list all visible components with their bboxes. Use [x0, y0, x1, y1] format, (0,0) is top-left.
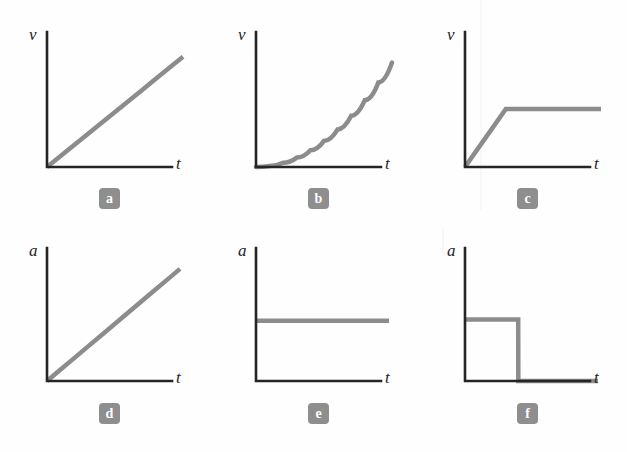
panel-badge-e: e	[308, 403, 329, 424]
y-axis-label: a	[447, 242, 456, 259]
curve-a	[47, 57, 183, 167]
axes-e	[256, 248, 381, 381]
y-axis-label: v	[238, 26, 246, 43]
panel-c: v t c	[418, 0, 627, 226]
y-axis-label: v	[29, 26, 37, 43]
x-axis-label: t	[385, 369, 390, 386]
panel-badge-d: d	[99, 403, 120, 424]
x-axis-label: t	[594, 155, 599, 172]
x-axis-label: t	[176, 155, 181, 172]
axes-a	[47, 32, 172, 167]
panel-badge-b: b	[308, 188, 329, 209]
panel-badge-a: a	[99, 188, 120, 209]
panel-a: v t a	[0, 0, 209, 226]
panel-e: a t e	[209, 226, 418, 452]
panel-f: a t f	[418, 226, 627, 452]
y-axis-label: v	[447, 26, 455, 43]
curve-d	[47, 269, 180, 381]
x-axis-label: t	[176, 369, 181, 386]
figure-root: v t a v t b v t c a t d	[0, 0, 627, 452]
curve-b	[256, 63, 392, 167]
panel-d: a t d	[0, 226, 209, 452]
curve-c	[465, 109, 601, 167]
x-axis-label: t	[594, 369, 599, 386]
curve-f	[465, 320, 598, 381]
y-axis-label: a	[238, 242, 247, 259]
axes-d	[47, 248, 172, 381]
axes-f	[465, 248, 590, 381]
axes-c	[465, 32, 590, 167]
panel-badge-c: c	[517, 188, 538, 209]
x-axis-label: t	[385, 155, 390, 172]
panel-b: v t b	[209, 0, 418, 226]
y-axis-label: a	[29, 242, 38, 259]
panel-badge-f: f	[517, 403, 538, 424]
